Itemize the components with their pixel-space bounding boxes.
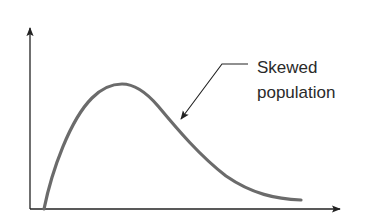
annotation-label-line1: Skewed	[257, 59, 317, 76]
skewed-distribution-diagram	[0, 0, 373, 223]
skewed-curve	[44, 84, 301, 209]
callout-leader-arrow	[181, 64, 248, 119]
annotation-label-line2: population	[257, 84, 335, 101]
